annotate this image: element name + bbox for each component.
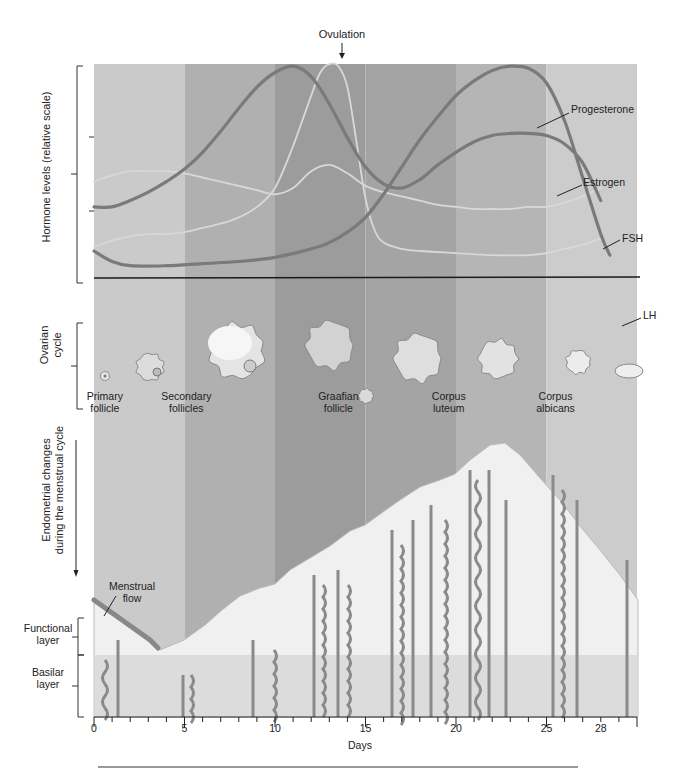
- endometrial-down-arrow-icon: [72, 440, 80, 578]
- label-fsh: FSH: [622, 232, 643, 244]
- ovarian-stage-label: Secondaryfollicles: [156, 390, 216, 414]
- menstrual-cycle-diagram: [0, 0, 677, 778]
- menstrual-flow-line1: Menstrual: [104, 580, 160, 592]
- ovarian-stage-label: Corpusalbicans: [526, 390, 586, 414]
- ovarian-stage-label: Corpusluteum: [419, 390, 479, 414]
- section-bracket: [77, 66, 83, 283]
- x-tick-label: 10: [263, 722, 287, 734]
- ovarian-stage-label: Graafianfollicle: [308, 390, 368, 414]
- ovulation-arrow-icon: [337, 42, 347, 60]
- x-tick-label: 15: [354, 722, 378, 734]
- hormone-levels-axis-label: Hormone levels (relative scale): [40, 82, 53, 252]
- functional-layer-label: Functional layer: [18, 622, 78, 646]
- basilar-layer-label: Basilar layer: [18, 666, 78, 690]
- label-estrogen: Estrogen: [583, 176, 625, 188]
- blood-vessel: [476, 480, 481, 720]
- ovulation-label: Ovulation: [312, 28, 372, 40]
- label-progesterone: Progesterone: [571, 103, 634, 115]
- x-tick-label: 0: [82, 722, 106, 734]
- endometrial-axis-label: Endometrial changes during the menstrual…: [40, 420, 66, 560]
- basilar-line2: layer: [18, 678, 78, 690]
- ovarian-stage-label: Primaryfollicle: [75, 390, 135, 414]
- functional-line1: Functional: [18, 622, 78, 634]
- x-tick-label: 25: [535, 722, 559, 734]
- basilar-line1: Basilar: [18, 666, 78, 678]
- ovarian-cycle-axis-label: Ovarian cycle: [38, 310, 64, 380]
- x-tick-label: 20: [444, 722, 468, 734]
- functional-line2: layer: [18, 634, 78, 646]
- label-lh: LH: [643, 309, 656, 321]
- endometrial-label-line1: Endometrial changes: [40, 420, 53, 560]
- x-tick-label: 28: [589, 722, 613, 734]
- hormone-baseline: [94, 277, 640, 278]
- menstrual-flow-label: Menstrual flow: [104, 580, 160, 604]
- x-axis-title: Days: [340, 739, 380, 751]
- endometrial-label-line2: during the menstrual cycle: [53, 420, 66, 560]
- ovarian-label-line2: cycle: [51, 310, 64, 380]
- x-tick-label: 5: [173, 722, 197, 734]
- menstrual-flow-line2: flow: [104, 592, 160, 604]
- section-bracket: [78, 655, 84, 717]
- ovarian-label-line1: Ovarian: [38, 310, 51, 380]
- section-bracket: [78, 618, 84, 655]
